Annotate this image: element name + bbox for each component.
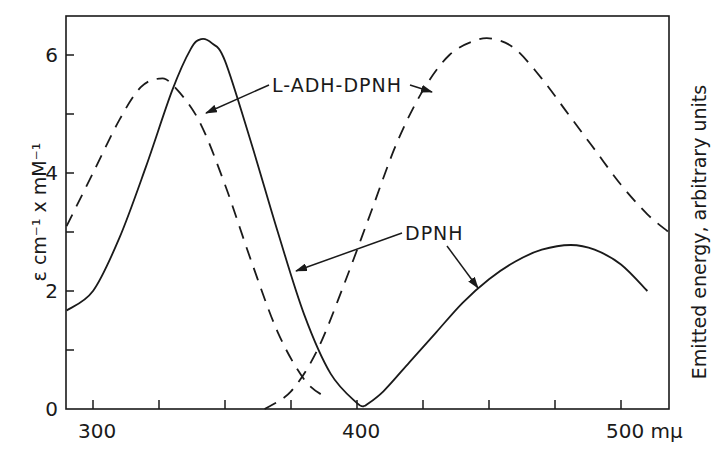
chart: 300400500 mμ 0246 L-ADH-DPNHDPNH ε cm⁻¹ …	[0, 0, 723, 451]
l-adh-dpnh-emission-line	[365, 245, 647, 406]
annotation-arrow	[206, 85, 269, 113]
annotation-label: L-ADH-DPNH	[272, 74, 402, 96]
annotations: L-ADH-DPNHDPNH	[206, 74, 478, 288]
y-tick-label: 2	[45, 279, 58, 303]
annotation-arrow	[296, 233, 402, 271]
x-axis-ticks	[93, 400, 621, 409]
x-tick-label: 400	[342, 419, 380, 443]
y-tick-label: 6	[45, 43, 58, 67]
annotation-arrow	[410, 85, 432, 92]
x-axis-tick-labels: 300400500 mμ	[78, 419, 683, 443]
y-axis-label-left: ε cm⁻¹ x mM⁻¹	[28, 143, 50, 282]
y-tick-label: 0	[45, 397, 58, 421]
dpnh-absorption-line	[67, 78, 326, 397]
y-axis-label-right: Emitted energy, arbitrary units	[688, 85, 710, 379]
annotation-label: DPNH	[405, 222, 464, 244]
x-tick-label: 500 mμ	[606, 419, 683, 443]
annotation-arrow	[447, 246, 478, 288]
x-tick-label: 300	[78, 419, 116, 443]
y-axis-ticks	[66, 55, 74, 350]
